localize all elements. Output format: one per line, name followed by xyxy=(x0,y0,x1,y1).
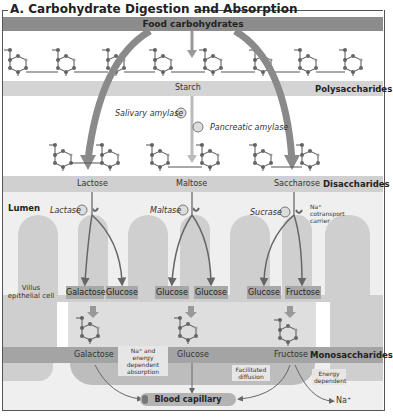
facilitated-diffusion-callout: Facilitated diffusion xyxy=(232,365,270,381)
product-fructose: Fructose xyxy=(285,286,321,299)
villus-epithelial-cell-label: Villus epithelial cell xyxy=(5,284,57,300)
blood-capillary: Blood capillary xyxy=(140,393,236,406)
mono-fructose: Fructose xyxy=(274,350,308,359)
na-energy-absorption-callout: Na⁺ and energy dependent absorption xyxy=(118,346,168,376)
na-cotransport-carrier-label: Na⁺ cotransport carrier xyxy=(310,203,345,224)
maltase-label: Maltase xyxy=(150,206,181,215)
monosaccharides-label: Monosaccharides xyxy=(310,350,393,360)
product-glucose: Glucose xyxy=(194,286,228,299)
mono-glucose: Glucose xyxy=(177,350,209,359)
mono-galactose: Galactose xyxy=(74,350,114,359)
product-glucose: Glucose xyxy=(106,286,138,299)
na-out-label: Na⁺ xyxy=(336,396,351,405)
polysaccharides-label: Polysaccharides xyxy=(315,84,392,94)
energy-dependent-callout: Energy dependent xyxy=(312,369,346,385)
disaccharide-lactose: Lactose xyxy=(77,179,108,188)
disaccharides-label: Disaccharides xyxy=(323,179,390,189)
capillary-end xyxy=(142,395,148,404)
sucrase-label: Sucrase xyxy=(250,208,282,217)
pancreatic-amylase-label: Pancreatic amylase xyxy=(210,123,288,132)
salivary-amylase-label: Salivary amylase xyxy=(115,109,183,118)
product-glucose: Glucose xyxy=(247,286,281,299)
product-glucose: Glucose xyxy=(155,286,189,299)
lactase-label: Lactase xyxy=(50,206,81,215)
disaccharide-maltose: Maltose xyxy=(176,179,207,188)
product-galactose: Galactose xyxy=(66,286,104,299)
disaccharide-saccharose: Saccharose xyxy=(274,179,320,188)
lumen-label: Lumen xyxy=(8,203,40,213)
starch-label: Starch xyxy=(175,83,201,92)
